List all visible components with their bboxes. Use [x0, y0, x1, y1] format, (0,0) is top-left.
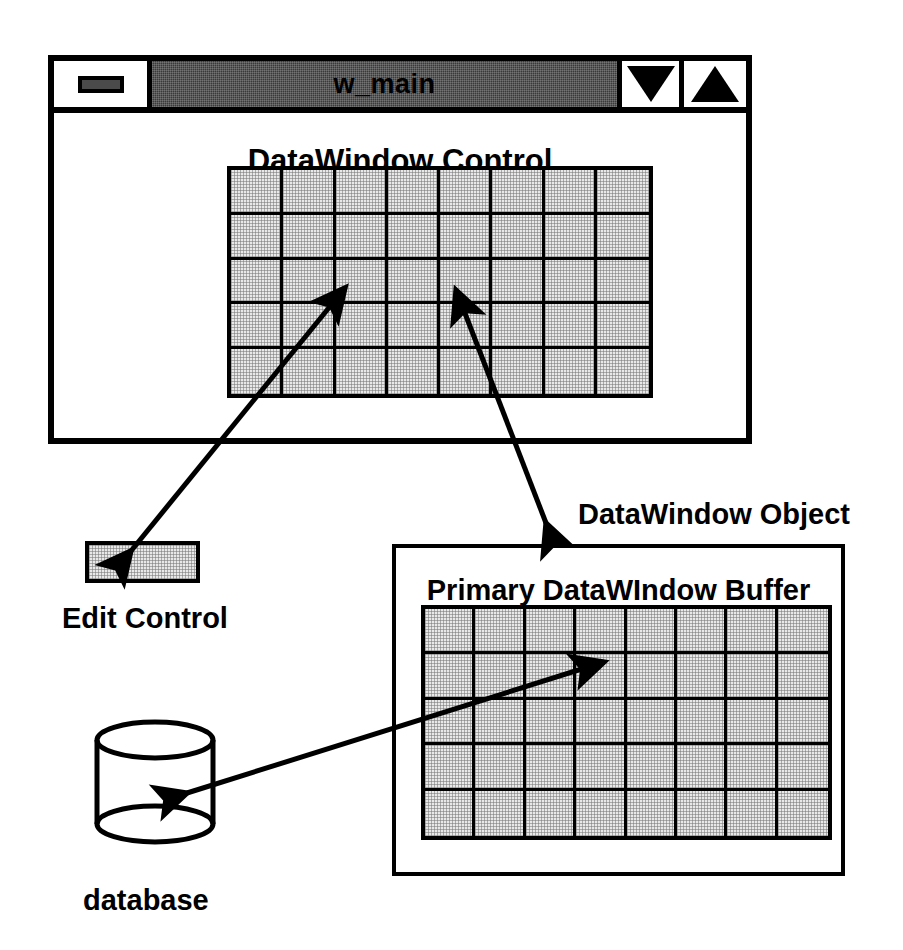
grid-cell	[231, 260, 283, 305]
grid-cell	[627, 609, 677, 654]
grid-cell	[475, 791, 525, 836]
grid-cell	[677, 609, 727, 654]
window-title: w_main	[333, 71, 435, 98]
grid-cell	[727, 654, 777, 699]
grid-cell	[545, 215, 597, 260]
grid-cell	[283, 349, 335, 394]
grid-cell	[283, 170, 335, 215]
grid-cell	[576, 700, 626, 745]
edit-control-box[interactable]	[85, 541, 200, 583]
database-label: database	[83, 886, 209, 915]
grid-cell	[475, 609, 525, 654]
grid-cell	[677, 700, 727, 745]
cylinder-icon	[92, 718, 218, 846]
grid-cell	[388, 170, 440, 215]
grid-cell	[388, 260, 440, 305]
grid-cell	[526, 609, 576, 654]
grid-cell	[576, 745, 626, 790]
grid-cell	[492, 349, 544, 394]
diagram-canvas: w_main DataWindow Control Edit Control D…	[0, 0, 903, 950]
minimize-button[interactable]	[622, 61, 684, 107]
grid-cell	[778, 609, 828, 654]
grid-cell	[231, 304, 283, 349]
grid-cell	[627, 654, 677, 699]
datawindow-control-grid	[227, 166, 653, 398]
grid-cell	[677, 654, 727, 699]
grid-cell	[440, 215, 492, 260]
grid-cell	[492, 260, 544, 305]
grid-cell	[727, 745, 777, 790]
grid-cell	[492, 304, 544, 349]
grid-cell	[425, 700, 475, 745]
grid-cell	[526, 745, 576, 790]
grid-cell	[545, 349, 597, 394]
window-title-area[interactable]: w_main	[152, 61, 622, 107]
window-titlebar: w_main	[54, 61, 746, 113]
grid-cell	[283, 215, 335, 260]
grid-cell	[627, 791, 677, 836]
grid-cell	[231, 170, 283, 215]
grid-cell	[440, 349, 492, 394]
grid-cell	[576, 654, 626, 699]
grid-cell	[425, 745, 475, 790]
grid-cell	[727, 609, 777, 654]
grid-cell	[283, 304, 335, 349]
grid-cell	[440, 170, 492, 215]
grid-cell	[336, 304, 388, 349]
grid-cell	[388, 304, 440, 349]
grid-cell	[677, 791, 727, 836]
grid-cell	[597, 349, 649, 394]
grid-cell	[597, 170, 649, 215]
grid-cell	[778, 654, 828, 699]
triangle-down-icon	[627, 66, 675, 102]
grid-cell	[576, 609, 626, 654]
grid-cell	[492, 215, 544, 260]
grid-cell	[475, 745, 525, 790]
grid-cell	[231, 349, 283, 394]
grid-cell	[545, 170, 597, 215]
grid-cell	[526, 654, 576, 699]
grid-cell	[526, 700, 576, 745]
grid-cell	[475, 654, 525, 699]
edit-control-label: Edit Control	[62, 604, 228, 633]
grid-cell	[475, 700, 525, 745]
grid-cell	[336, 170, 388, 215]
grid-cell	[778, 700, 828, 745]
grid-cell	[778, 745, 828, 790]
system-menu-button[interactable]	[54, 61, 152, 107]
triangle-up-icon	[691, 66, 739, 102]
grid-cell	[727, 700, 777, 745]
grid-cell	[336, 215, 388, 260]
grid-cell	[231, 215, 283, 260]
maximize-button[interactable]	[684, 61, 746, 107]
primary-buffer-label: Primary DataWIndow Buffer	[396, 576, 841, 605]
grid-cell	[283, 260, 335, 305]
grid-cell	[545, 260, 597, 305]
grid-cell	[440, 304, 492, 349]
grid-cell	[388, 215, 440, 260]
grid-cell	[440, 260, 492, 305]
database-cylinder	[92, 718, 218, 846]
grid-cell	[526, 791, 576, 836]
grid-cell	[597, 215, 649, 260]
grid-cell	[492, 170, 544, 215]
grid-cell	[336, 349, 388, 394]
grid-cell	[336, 260, 388, 305]
grid-cell	[627, 700, 677, 745]
grid-cell	[388, 349, 440, 394]
grid-cell	[425, 609, 475, 654]
grid-cell	[425, 654, 475, 699]
grid-cell	[597, 304, 649, 349]
grid-cell	[597, 260, 649, 305]
grid-cell	[778, 791, 828, 836]
grid-cell	[677, 745, 727, 790]
grid-cell	[727, 791, 777, 836]
datawindow-object-label: DataWindow Object	[578, 500, 850, 529]
grid-cell	[627, 745, 677, 790]
grid-cell	[576, 791, 626, 836]
system-menu-icon	[78, 76, 124, 93]
grid-cell	[425, 791, 475, 836]
grid-cell	[545, 304, 597, 349]
primary-buffer-grid	[421, 605, 832, 840]
